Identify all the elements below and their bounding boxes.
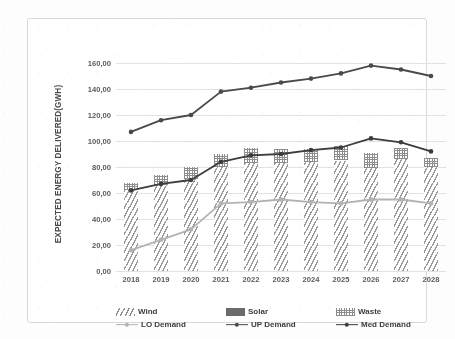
data-point-marker — [369, 197, 374, 202]
gridline — [116, 271, 446, 272]
data-point-marker — [219, 89, 224, 94]
legend-row-bars: WindSolarWaste — [116, 307, 446, 316]
data-point-marker — [129, 188, 134, 193]
x-axis-tick-label: 2022 — [243, 275, 260, 284]
data-point-marker — [279, 80, 284, 85]
legend-item-up-demand[interactable]: UP Demand — [226, 320, 336, 329]
x-axis-tick-label: 2025 — [333, 275, 350, 284]
data-point-marker — [369, 136, 374, 141]
x-axis-tick-label: 2018 — [123, 275, 140, 284]
y-axis-tick-label: 40,00 — [92, 215, 111, 224]
y-axis-title: EXPECTED ENERGY DELIVERED(GWH) — [54, 0, 63, 79]
data-point-marker — [309, 76, 314, 81]
legend-line-marker-icon — [116, 321, 138, 329]
data-point-marker — [309, 148, 314, 153]
data-point-marker — [159, 182, 164, 187]
legend-label: UP Demand — [251, 320, 296, 329]
legend-swatch-solar — [226, 308, 245, 316]
x-axis-tick-label: 2021 — [213, 275, 230, 284]
chart-legend: WindSolarWaste LO DemandUP DemandMed Dem… — [116, 307, 446, 333]
line-series-med-demand — [129, 136, 434, 193]
line-series-up-demand — [129, 63, 434, 134]
y-axis-tick-label: 80,00 — [92, 163, 111, 172]
data-point-marker — [429, 149, 434, 154]
legend-line-marker-icon — [226, 321, 248, 329]
y-axis-tick-label: 120,00 — [88, 111, 111, 120]
data-point-marker — [219, 201, 224, 206]
data-point-marker — [399, 140, 404, 145]
y-axis-tick-label: 0,00 — [96, 267, 111, 276]
legend-item-wind[interactable]: Wind — [116, 307, 226, 316]
line-path — [131, 200, 431, 251]
data-point-marker — [339, 201, 344, 206]
x-axis-tick-label: 2026 — [363, 275, 380, 284]
data-point-marker — [159, 118, 164, 123]
data-point-marker — [429, 74, 434, 79]
y-axis-tick-label: 100,00 — [88, 137, 111, 146]
chart-frame: EXPECTED ENERGY DELIVERED(GWH) 0,0020,00… — [27, 18, 427, 323]
data-point-marker — [339, 145, 344, 150]
plot-area: 0,0020,0040,0060,0080,00100,00120,00140,… — [116, 63, 446, 271]
y-axis-tick-label: 20,00 — [92, 241, 111, 250]
line-path — [131, 66, 431, 132]
data-point-marker — [219, 160, 224, 165]
x-axis-tick-label: 2020 — [183, 275, 200, 284]
data-point-marker — [249, 153, 254, 158]
legend-item-waste[interactable]: Waste — [336, 307, 446, 316]
legend-label: Waste — [358, 307, 381, 316]
line-series-lo-demand — [129, 197, 434, 252]
legend-row-lines: LO DemandUP DemandMed Demand — [116, 320, 446, 329]
legend-label: Med Demand — [361, 320, 411, 329]
legend-swatch-wind — [116, 308, 135, 316]
y-axis-tick-label: 160,00 — [88, 59, 111, 68]
legend-line-marker-icon — [336, 321, 358, 329]
x-axis-tick-label: 2028 — [423, 275, 440, 284]
x-axis-tick-label: 2024 — [303, 275, 320, 284]
legend-item-med-demand[interactable]: Med Demand — [336, 320, 446, 329]
data-point-marker — [129, 130, 134, 135]
data-point-marker — [159, 238, 164, 243]
data-point-marker — [129, 248, 134, 253]
x-axis-tick-label: 2023 — [273, 275, 290, 284]
legend-label: Solar — [248, 307, 268, 316]
y-axis-tick-label: 140,00 — [88, 85, 111, 94]
data-point-marker — [309, 200, 314, 205]
scanned-page: EXPECTED ENERGY DELIVERED(GWH) 0,0020,00… — [0, 0, 455, 339]
data-point-marker — [369, 63, 374, 68]
line-path — [131, 138, 431, 190]
data-point-marker — [189, 113, 194, 118]
data-point-marker — [399, 197, 404, 202]
legend-item-solar[interactable]: Solar — [226, 307, 336, 316]
data-point-marker — [429, 201, 434, 206]
data-point-marker — [279, 197, 284, 202]
data-point-marker — [399, 67, 404, 72]
y-axis-title-label: EXPECTED ENERGY DELIVERED(GWH) — [54, 79, 63, 249]
data-point-marker — [279, 152, 284, 157]
legend-label: Wind — [138, 307, 157, 316]
data-point-marker — [189, 227, 194, 232]
legend-swatch-waste — [336, 308, 355, 316]
legend-label: LO Demand — [141, 320, 186, 329]
data-point-marker — [189, 178, 194, 183]
y-axis-tick-label: 60,00 — [92, 189, 111, 198]
data-point-marker — [249, 85, 254, 90]
x-axis-tick-label: 2027 — [393, 275, 410, 284]
line-series-layer — [116, 63, 446, 271]
legend-item-lo-demand[interactable]: LO Demand — [116, 320, 226, 329]
x-axis-tick-label: 2019 — [153, 275, 170, 284]
data-point-marker — [339, 71, 344, 76]
data-point-marker — [249, 200, 254, 205]
